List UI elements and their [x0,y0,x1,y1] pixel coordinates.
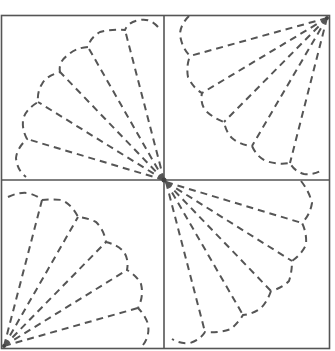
top-right-apex [325,16,329,20]
fan-top-left [16,20,164,180]
center-apex [162,178,167,183]
fan-bottom-right [166,181,312,343]
apex-points [2,16,329,348]
fan-bottom-left [4,193,148,346]
quilt-fan-diagram [0,0,335,351]
fan-top-right [180,16,327,174]
bottom-left-apex [2,344,6,348]
